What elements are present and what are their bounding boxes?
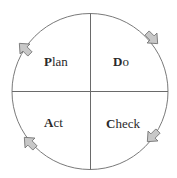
label-rest: o [122,54,129,69]
arrow-icon-plan-to-do [142,28,163,49]
label-initial: P [44,54,52,69]
quadrant-label-plan: Plan [44,55,68,68]
quadrant-label-act: Act [44,116,63,129]
label-rest: lan [52,54,68,69]
arrow-icon-check-to-act [19,132,40,153]
label-rest: heck [115,116,140,131]
label-initial: A [44,115,53,130]
pdca-cycle-diagram [0,0,177,178]
arrow-icon-act-to-plan [14,38,35,59]
arrow-icon-do-to-check [142,126,163,147]
quadrant-label-do: Do [113,55,129,68]
quadrant-label-check: Check [106,117,140,130]
label-initial: C [106,116,115,131]
label-rest: ct [53,115,62,130]
label-initial: D [113,54,122,69]
